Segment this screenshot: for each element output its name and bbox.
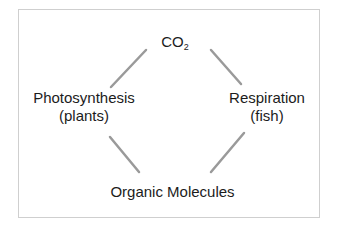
node-co2-subscript: 2 [184,42,189,52]
connector-photosynthesis-organic [110,137,139,172]
node-photosynthesis: Photosynthesis (plants) [24,89,144,125]
connector-co2-photosynthesis [111,50,146,87]
node-respiration-sublabel: (fish) [217,107,317,125]
node-photosynthesis-sublabel: (plants) [24,107,144,125]
connector-respiration-organic [211,133,244,172]
node-co2-label: CO [161,33,184,50]
node-respiration: Respiration (fish) [217,89,317,125]
node-organic-molecules: Organic Molecules [95,183,250,201]
connector-co2-respiration [211,50,241,84]
node-respiration-label: Respiration [217,89,317,107]
node-photosynthesis-label: Photosynthesis [24,89,144,107]
node-co2: CO2 [150,33,200,51]
